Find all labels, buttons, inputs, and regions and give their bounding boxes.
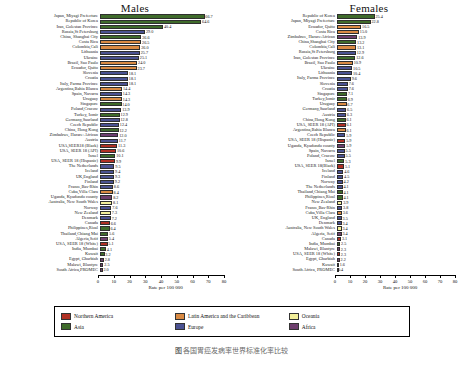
category-label: Poland, Cracow	[231, 154, 337, 159]
category-label: Iceland	[231, 169, 337, 174]
axis-tick-label: 40	[159, 279, 164, 284]
legend-label: Northern America	[74, 313, 113, 319]
bar-europe	[100, 175, 115, 179]
bar-europe	[100, 216, 111, 220]
bar-asia	[100, 232, 109, 236]
bar-latin	[100, 61, 138, 65]
bar-northamerica	[100, 144, 118, 148]
chart-title-females: Females	[231, 2, 463, 14]
bar-value-label: 40.4	[163, 24, 171, 29]
legend-swatch-europe	[175, 323, 185, 331]
bar-northamerica	[337, 123, 346, 127]
bar-europe	[100, 139, 118, 143]
figure-root: Males Japan, Miyagi Prefecture66.7Republ…	[0, 0, 463, 366]
bar-rows-males: Japan, Miyagi Prefecture66.7Republic of …	[0, 14, 232, 273]
x-axis-title: Rate per 100 000	[148, 285, 182, 290]
caption-text: 各国胃癌发病率世界标准化率比较	[183, 347, 288, 355]
legend-swatch-asia	[61, 323, 71, 331]
bar-europe	[337, 175, 344, 179]
axis-tick-label: 40	[393, 279, 398, 284]
legend-label: Oceania	[302, 313, 320, 319]
chart-title-males: Males	[0, 2, 232, 14]
axis-tick-label: 50	[408, 279, 413, 284]
legend-swatch-oceania	[289, 313, 299, 321]
legend-swatch-northamerica	[61, 313, 71, 321]
legend-item: Europe	[175, 322, 289, 332]
bar-value-label: 2.0	[103, 267, 109, 272]
bar-asia	[337, 97, 347, 101]
bar-europe	[100, 185, 114, 189]
bar-latin	[100, 87, 123, 91]
bar-europe	[337, 66, 353, 70]
legend-swatch-africa	[289, 323, 299, 331]
axis-tick-label: 10	[348, 279, 353, 284]
bar-oceania	[100, 211, 111, 215]
category-label: USA, SEER 18(Black)	[231, 164, 337, 169]
axis-tick-label: 20	[363, 279, 368, 284]
legend-item: Africa	[289, 322, 403, 332]
bar-asia	[337, 56, 356, 60]
axis-tick-label: 20	[127, 279, 132, 284]
bar-northamerica	[100, 221, 110, 225]
bar-europe	[100, 108, 122, 112]
bar-europe	[100, 180, 114, 184]
axis-tick-label: 70	[206, 279, 211, 284]
category-label: South Africa, PROMEC	[231, 268, 337, 273]
bar-northamerica	[100, 242, 108, 246]
bar-asia	[100, 154, 116, 158]
bar-europe	[337, 71, 353, 75]
bar-northamerica	[337, 139, 346, 143]
legend-label: Europe	[188, 324, 204, 330]
bar-track: 0.4	[337, 267, 463, 272]
bar-europe	[337, 108, 347, 112]
bar-asia	[337, 40, 357, 44]
bar-latin	[100, 66, 137, 70]
bar-asia	[100, 102, 122, 106]
bar-europe	[100, 56, 140, 60]
axis-tick-label: 60	[423, 279, 428, 284]
caption-label: 图	[175, 347, 182, 355]
bar-europe	[337, 113, 346, 117]
axis-tick-label: 0	[334, 279, 336, 284]
bar-africa	[337, 35, 358, 39]
axis-tick-label: 30	[378, 279, 383, 284]
bar-europe	[100, 30, 146, 34]
bar-asia	[100, 25, 164, 29]
bar-asia	[337, 14, 375, 18]
category-label: Germany,Saarland	[231, 107, 337, 112]
category-label: South Africa,PROMEC	[0, 268, 100, 273]
bar-northamerica	[100, 159, 116, 163]
bar-latin	[100, 40, 142, 44]
bar-asia	[337, 159, 345, 163]
axis-tick-label: 70	[438, 279, 443, 284]
bar-africa	[100, 195, 113, 199]
bar-europe	[337, 149, 345, 153]
bar-europe	[100, 118, 120, 122]
bar-rows-females: Republic of Korea25.4Japan, Miyagi Prefe…	[231, 14, 463, 273]
bar-latin	[337, 45, 357, 49]
bar-europe	[337, 82, 348, 86]
bar-latin	[337, 61, 353, 65]
bar-northamerica	[100, 149, 117, 153]
bar-europe	[100, 71, 129, 75]
axis-tick-label: 60	[190, 279, 195, 284]
legend-item: Northern America	[61, 311, 175, 321]
x-axis-title: Rate per 100 000	[383, 285, 417, 290]
legend-item: Asia	[61, 322, 175, 332]
bar-europe	[337, 133, 346, 137]
bar-europe	[100, 206, 112, 210]
axis-tick-label: 30	[143, 279, 148, 284]
bar-europe	[100, 82, 129, 86]
chart-panel-females: Females Republic of Korea25.4Japan, Miya…	[231, 0, 463, 300]
legend-label: Africa	[302, 324, 316, 330]
bar-value-label: 22.8	[371, 19, 379, 24]
legend-swatch-latin	[175, 313, 185, 321]
bar-latin	[337, 30, 360, 34]
bar-europe	[337, 51, 356, 55]
category-label: Egypt, Gharbiah	[231, 257, 337, 262]
axis-tick-label: 10	[111, 279, 116, 284]
bar-row: South Africa,PROMEC2.0	[0, 267, 232, 272]
bar-oceania	[100, 201, 113, 205]
bar-asia	[100, 128, 119, 132]
bar-asia	[100, 35, 142, 39]
